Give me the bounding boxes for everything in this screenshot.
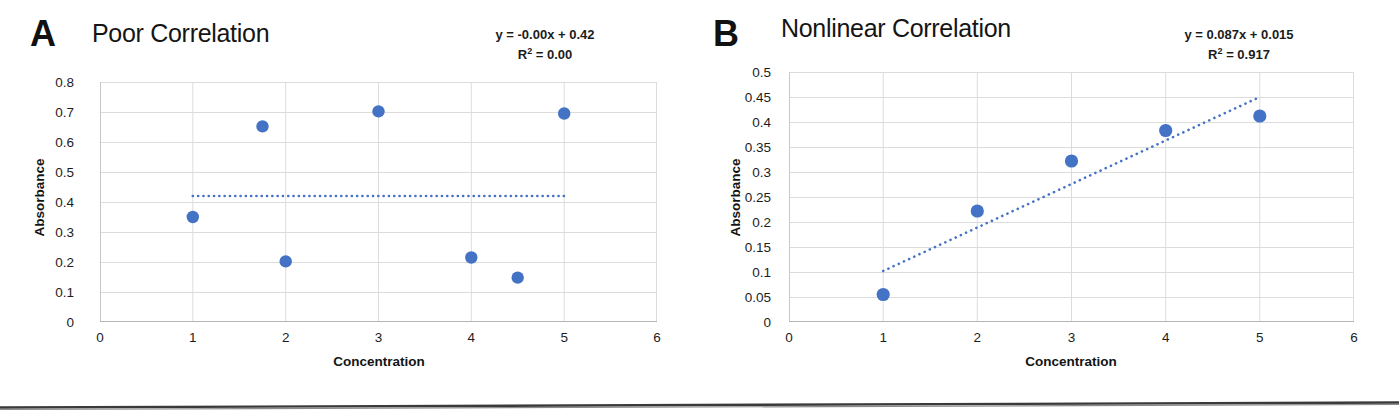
panel-b-plot-area: [789, 72, 1354, 322]
panel-a-data-point: [512, 271, 524, 283]
panel-a-ytick-8: 0: [28, 315, 74, 330]
panel-a-trendline-equation: y = -0.00x + 0.42: [450, 26, 640, 45]
panel-a-data-point: [372, 105, 384, 117]
panel-a-letter: A: [30, 16, 56, 52]
panel-b-title: Nonlinear Correlation: [781, 16, 1011, 41]
panel-b-r-squared-prefix: R: [1208, 47, 1217, 62]
panel-a-ytick-3: 0.5: [28, 165, 74, 180]
panel-b-ytick-9: 0.05: [715, 290, 771, 305]
panel-b: B Nonlinear Correlation y = 0.087x + 0.0…: [699, 0, 1398, 411]
panel-b-trendline-equation: y = 0.087x + 0.015: [1139, 26, 1339, 45]
panel-a-ytick-1: 0.7: [28, 105, 74, 120]
panel-b-ytick-10: 0: [715, 315, 771, 330]
panel-b-ytick-1: 0.45: [715, 90, 771, 105]
panel-b-ytick-7: 0.15: [715, 240, 771, 255]
panel-a-r-squared-prefix: R: [518, 47, 527, 62]
panel-a-xtick-6: 6: [653, 330, 661, 345]
panel-b-xtick-0: 0: [785, 330, 793, 345]
panel-a-ytick-5: 0.3: [28, 225, 74, 240]
panel-b-x-axis-title: Concentration: [971, 354, 1171, 369]
panel-a-r-squared-value: = 0.00: [532, 47, 572, 62]
panel-a-ytick-2: 0.6: [28, 135, 74, 150]
panel-a-ytick-4: 0.4: [28, 195, 74, 210]
figure-two-panel-scatter: A Poor Correlation y = -0.00x + 0.42 R2 …: [0, 0, 1399, 411]
panel-a-data-point: [465, 251, 477, 263]
panel-b-data-point: [1253, 109, 1266, 122]
panel-a: A Poor Correlation y = -0.00x + 0.42 R2 …: [0, 0, 699, 411]
panel-b-ytick-0: 0.5: [715, 65, 771, 80]
panel-a-title: Poor Correlation: [92, 21, 269, 46]
panel-a-ytick-6: 0.2: [28, 255, 74, 270]
panel-a-xtick-3: 3: [375, 330, 383, 345]
panel-a-xtick-5: 5: [560, 330, 568, 345]
panel-a-xtick-0: 0: [96, 330, 104, 345]
panel-a-equation-block: y = -0.00x + 0.42 R2 = 0.00: [450, 26, 640, 65]
panel-a-plot-area: [100, 82, 657, 322]
panel-b-xtick-5: 5: [1256, 330, 1264, 345]
panel-b-ytick-6: 0.2: [715, 215, 771, 230]
panel-b-data-point: [877, 288, 890, 301]
panel-a-ytick-0: 0.8: [28, 75, 74, 90]
panel-b-data-point: [1159, 124, 1172, 137]
panel-b-ytick-8: 0.1: [715, 265, 771, 280]
panel-b-xtick-1: 1: [879, 330, 887, 345]
panel-a-data-point: [256, 120, 268, 132]
panel-a-x-axis-title: Concentration: [279, 354, 479, 369]
panel-a-data-point: [558, 107, 570, 119]
panel-a-xtick-2: 2: [282, 330, 290, 345]
panel-b-xtick-3: 3: [1068, 330, 1076, 345]
panel-b-xtick-4: 4: [1162, 330, 1170, 345]
panel-b-xtick-2: 2: [974, 330, 982, 345]
panel-b-ytick-3: 0.35: [715, 140, 771, 155]
panel-a-data-point: [280, 255, 292, 267]
panel-b-equation-block: y = 0.087x + 0.015 R2 = 0.917: [1139, 26, 1339, 65]
panel-b-ytick-5: 0.25: [715, 190, 771, 205]
panel-a-data-point: [187, 211, 199, 223]
panel-b-xtick-6: 6: [1350, 330, 1358, 345]
panel-a-xtick-1: 1: [189, 330, 197, 345]
panel-a-ytick-7: 0.1: [28, 285, 74, 300]
panel-b-letter: B: [713, 16, 739, 52]
panel-b-r-squared: R2 = 0.917: [1139, 45, 1339, 65]
panel-a-xtick-4: 4: [468, 330, 476, 345]
panel-b-r-squared-value: = 0.917: [1223, 47, 1270, 62]
panel-b-ytick-4: 0.3: [715, 165, 771, 180]
panel-b-data-point: [971, 204, 984, 217]
panel-a-r-squared: R2 = 0.00: [450, 45, 640, 65]
panel-b-ytick-2: 0.4: [715, 115, 771, 130]
panel-b-data-point: [1065, 154, 1078, 167]
